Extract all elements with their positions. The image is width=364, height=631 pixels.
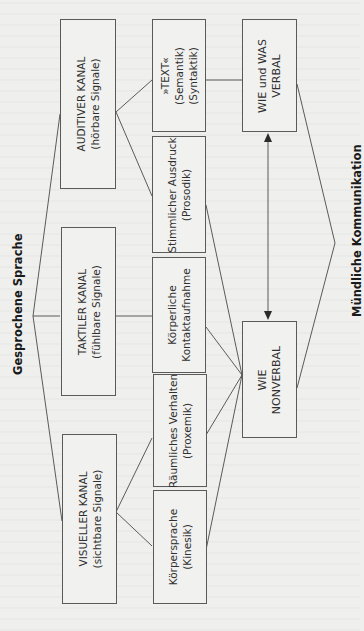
- signal-subtitle: (Syntaktik): [186, 47, 200, 105]
- signal-box-kinesik: Körpersprache (Kinesik): [153, 490, 207, 604]
- outcome-title: WIE: [256, 345, 270, 413]
- channel-box-taktil: TAKTILER KANAL (fühlbare Signale): [61, 227, 116, 396]
- signal-box-kontaktaufnahme: Körperliche Kontaktaufnahme: [152, 257, 206, 373]
- outcome-title: WIE und WAS: [256, 39, 270, 113]
- signal-subtitle: (Proxemik): [180, 373, 194, 487]
- signal-box-proxemik: Räumliches Verhalten (Proxemik): [153, 374, 207, 487]
- channel-title: AUDITIVER KANAL: [74, 57, 88, 152]
- channel-title: VISUELLER KANAL: [76, 470, 90, 569]
- outcome-box-verbal: WIE und WAS VERBAL: [242, 19, 297, 132]
- channel-subtitle: (sichtbare Signale): [90, 470, 104, 569]
- signal-subtitle: (Semantik): [172, 47, 186, 105]
- signal-title: Körpersprache: [166, 509, 180, 585]
- signal-subtitle: (Kinesik): [180, 509, 194, 585]
- channel-subtitle: (fühlbare Signale): [89, 265, 103, 359]
- channel-subtitle: (hörbare Signale): [88, 57, 102, 152]
- outcome-box-nonverbal: WIE NONVERBAL: [242, 321, 297, 438]
- signal-box-prosodik: Stimmlicher Ausdruck (Prosodik): [152, 136, 206, 253]
- channel-box-auditiv: AUDITIVER KANAL (hörbare Signale): [60, 19, 116, 189]
- signal-title: Stimmlicher Ausdruck: [165, 137, 179, 252]
- outcome-subtitle: NONVERBAL: [270, 345, 284, 413]
- group-label-gesprochene-sprache: Gesprochene Sprache: [11, 255, 25, 375]
- signal-title: »TEXT«: [158, 47, 172, 105]
- group-label-muendliche-kommunikation: Mündliche Kommunikation: [350, 167, 364, 317]
- channel-box-visuell: VISUELLER KANAL (sichtbare Signale): [62, 434, 117, 604]
- signal-title: Körperliche: [165, 268, 179, 361]
- channel-title: TAKTILER KANAL: [75, 265, 89, 359]
- signal-box-text: »TEXT« (Semantik) (Syntaktik): [152, 19, 206, 132]
- outcome-subtitle: VERBAL: [270, 39, 284, 113]
- signal-title: Räumliches Verhalten: [166, 373, 180, 487]
- signal-subtitle: (Prosodik): [179, 137, 193, 252]
- signal-subtitle: Kontaktaufnahme: [179, 268, 193, 361]
